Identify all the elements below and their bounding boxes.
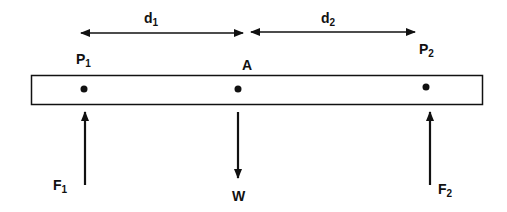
point-a-dot <box>235 86 242 93</box>
point-p1-dot <box>81 86 88 93</box>
force-f1: F1 <box>53 112 85 195</box>
point-label-p1: P1 <box>76 51 91 69</box>
beam-diagram: d1 d2 P1 A P2 F1 W F2 <box>0 0 507 212</box>
dimension-d1: d1 <box>81 10 243 33</box>
point-label-p2: P2 <box>419 41 434 59</box>
diagram-canvas: d1 d2 P1 A P2 F1 W F2 <box>0 0 507 212</box>
force-label: F1 <box>53 177 68 195</box>
point-label-a: A <box>242 57 252 73</box>
force-f2: F2 <box>430 112 453 199</box>
dimension-label: d1 <box>144 10 159 28</box>
point-p2-dot <box>423 84 430 91</box>
force-label: F2 <box>438 181 453 199</box>
beam <box>32 76 483 105</box>
dimension-d2: d2 <box>251 10 415 32</box>
force-w: W <box>232 112 246 204</box>
dimension-label: d2 <box>321 10 336 28</box>
force-label: W <box>232 188 246 204</box>
